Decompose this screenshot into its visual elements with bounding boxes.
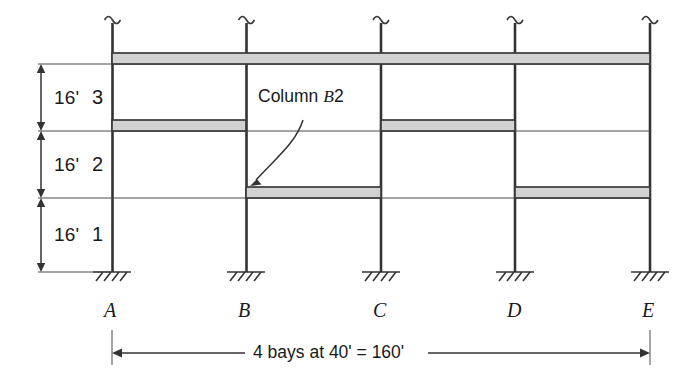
story-number-1: 1 xyxy=(92,224,103,244)
bay-dimension-label: 4 bays at 40' = 160' xyxy=(253,344,404,362)
support-fixed-D xyxy=(496,272,534,281)
story-3-height-label: 16' xyxy=(54,88,79,107)
story-1-height-label: 16' xyxy=(54,225,79,244)
grid-label-D: D xyxy=(507,300,521,320)
story-2-height-label: 16' xyxy=(54,155,79,174)
grid-label-B: B xyxy=(238,300,250,320)
frame-elevation-drawing xyxy=(0,0,693,392)
beam-level3-C-D xyxy=(381,120,515,131)
beam-level3-A-B xyxy=(112,120,246,131)
beam-level2-B-C xyxy=(246,187,381,198)
beam-roof-A-E xyxy=(112,53,650,64)
callout-leader-arrow xyxy=(250,120,303,186)
story-number-2: 2 xyxy=(92,154,103,174)
support-fixed-C xyxy=(362,272,400,281)
callout-grid-text: B xyxy=(323,86,334,106)
grid-label-C: C xyxy=(373,300,386,320)
callout-prefix-text: Column xyxy=(258,86,323,106)
beam-level2-D-E xyxy=(515,187,650,198)
grid-label-E: E xyxy=(642,300,654,320)
support-fixed-A xyxy=(93,272,131,281)
support-fixed-E xyxy=(631,272,669,281)
column-b2-callout-label: Column B2 xyxy=(258,88,344,106)
frame-elevation-figure: 16' 16' 16' 3 2 1 A B C D E Column B2 4 … xyxy=(0,0,693,392)
grid-label-A: A xyxy=(104,300,116,320)
story-number-3: 3 xyxy=(92,87,103,107)
support-fixed-B xyxy=(227,272,265,281)
callout-level-text: 2 xyxy=(334,86,344,106)
